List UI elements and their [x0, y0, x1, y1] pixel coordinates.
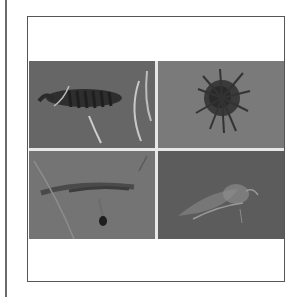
- insect-image-icon: [158, 151, 284, 239]
- shrimp-image-icon: [29, 151, 155, 239]
- spiky-organism-image-icon: [158, 61, 284, 148]
- image-grid: [29, 61, 284, 239]
- photo-top-right: [158, 61, 284, 148]
- photo-bottom-left: [29, 151, 155, 239]
- photo-bottom-right: [158, 151, 284, 239]
- figure-frame: [27, 16, 285, 282]
- photo-top-left: [29, 61, 155, 148]
- larva-image-icon: [29, 61, 155, 148]
- margin-line: [5, 0, 7, 297]
